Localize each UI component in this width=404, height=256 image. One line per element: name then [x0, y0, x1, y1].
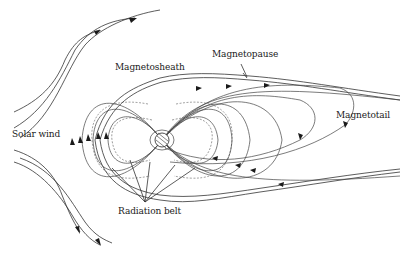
magnetopause-label: Magnetopause	[212, 49, 278, 59]
magnetosheath-label: Magnetosheath	[115, 62, 185, 72]
solar-wind-label: Solar wind	[12, 129, 60, 139]
magnetopause-boundary	[95, 64, 400, 202]
magnetosphere-diagram	[0, 0, 404, 256]
solar-wind-lines-upper	[14, 10, 160, 138]
radiation-belt-pointers	[112, 160, 195, 202]
dayside-arrows	[70, 132, 109, 145]
magnetotail-label: Magnetotail	[336, 110, 390, 120]
radiation-belt-label: Radiation belt	[118, 206, 181, 216]
dipole-field-lines	[82, 102, 282, 179]
solar-wind-lines-lower	[14, 150, 112, 246]
